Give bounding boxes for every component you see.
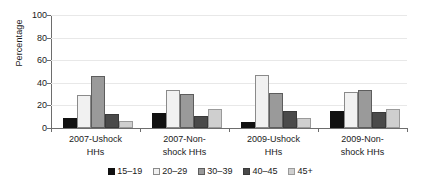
legend-label: 15–19	[117, 167, 142, 176]
legend-swatch-icon	[288, 168, 295, 175]
legend-item[interactable]: 20–29	[153, 167, 187, 176]
legend-swatch-icon	[243, 168, 250, 175]
legend-item[interactable]: 40–45	[243, 167, 277, 176]
bar[interactable]	[91, 76, 105, 128]
bar[interactable]	[372, 112, 386, 128]
x-tick-mark	[318, 128, 319, 132]
bar[interactable]	[386, 109, 400, 128]
legend-label: 40–45	[252, 167, 277, 176]
legend-label: 45+	[297, 167, 312, 176]
legend-item[interactable]: 30–39	[198, 167, 232, 176]
bar[interactable]	[344, 92, 358, 128]
legend-label: 30–39	[207, 167, 232, 176]
x-axis-category-line: 2009-Non-	[311, 133, 415, 146]
bar-chart: Percentage 020406080100 2007-UshockHHs20…	[0, 0, 421, 191]
x-axis-category-label: 2009-Non-shock HHs	[311, 133, 415, 158]
bar[interactable]	[77, 95, 91, 128]
bar[interactable]	[194, 116, 208, 128]
plot-area	[51, 15, 407, 128]
x-tick-mark	[229, 128, 230, 132]
legend-swatch-icon	[108, 168, 115, 175]
legend-item[interactable]: 15–19	[108, 167, 142, 176]
x-tick-mark	[51, 128, 52, 132]
bar-group	[63, 15, 133, 128]
bar-group	[241, 15, 311, 128]
legend-label: 20–29	[162, 167, 187, 176]
legend-item[interactable]: 45+	[288, 167, 312, 176]
y-tick-label: 40	[21, 79, 47, 88]
bar[interactable]	[255, 75, 269, 128]
bar[interactable]	[152, 113, 166, 128]
bar[interactable]	[241, 122, 255, 128]
y-tick-label: 60	[21, 56, 47, 65]
bar-group	[152, 15, 222, 128]
bar-group	[330, 15, 400, 128]
bar[interactable]	[166, 90, 180, 128]
bar[interactable]	[105, 114, 119, 128]
bar[interactable]	[269, 93, 283, 128]
bar[interactable]	[358, 90, 372, 128]
y-tick-label: 20	[21, 101, 47, 110]
bar[interactable]	[330, 111, 344, 128]
y-tick-label: 80	[21, 34, 47, 43]
bar[interactable]	[119, 121, 133, 128]
legend-swatch-icon	[198, 168, 205, 175]
x-axis-category-line: shock HHs	[311, 146, 415, 159]
bar[interactable]	[297, 118, 311, 128]
bar[interactable]	[180, 94, 194, 128]
x-tick-mark	[407, 128, 408, 132]
bar[interactable]	[63, 118, 77, 128]
x-tick-mark	[140, 128, 141, 132]
bar[interactable]	[283, 111, 297, 128]
chart-legend: 15–1920–2930–3940–4545+	[0, 167, 421, 176]
y-tick-label: 100	[21, 11, 47, 20]
bar[interactable]	[208, 109, 222, 128]
y-tick-label: 0	[21, 124, 47, 133]
legend-swatch-icon	[153, 168, 160, 175]
